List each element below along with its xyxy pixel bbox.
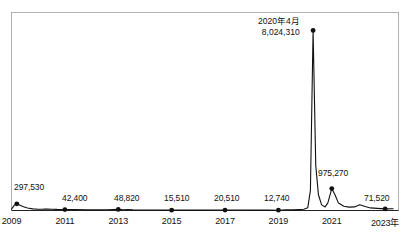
value-label-point-2021: 975,270 [318, 168, 348, 179]
value-label-point-2015: 15,510 [164, 193, 189, 204]
data-point-marker [329, 186, 334, 191]
x-tick-2015: 2015 [142, 216, 202, 226]
value-label-point-2023: 71,520 [364, 193, 389, 204]
value-label-point-2019: 12,740 [264, 193, 289, 204]
data-point-marker [169, 208, 174, 213]
data-point-marker [223, 208, 228, 213]
x-tick-2017: 2017 [195, 216, 255, 226]
chart-container: 2020年4月 8,024,310 297,53042,40048,82015,… [0, 0, 411, 234]
x-tick-2021: 2021 [302, 216, 362, 226]
plot-frame [12, 13, 399, 211]
data-point-marker [311, 28, 316, 33]
value-label-point-2011: 42,400 [62, 193, 87, 204]
data-point-marker [383, 207, 388, 212]
peak-value-label: 8,024,310 [258, 27, 300, 38]
peak-annotation-2020-04: 2020年4月 8,024,310 [258, 16, 300, 37]
value-label-point-2017: 20,510 [214, 193, 239, 204]
data-point-marker [62, 207, 67, 212]
peak-date-label: 2020年4月 [258, 16, 300, 27]
data-point-marker [276, 208, 281, 213]
data-point-marker [14, 201, 19, 206]
x-tick-2019: 2019 [248, 216, 308, 226]
data-point-marker [116, 207, 121, 212]
value-label-point-2009: 297,530 [14, 182, 44, 193]
x-tick-2011: 2011 [35, 216, 95, 226]
value-label-point-2013: 48,820 [114, 193, 139, 204]
x-tick-2013: 2013 [88, 216, 148, 226]
x-tick-2023: 2023年 [355, 216, 411, 229]
